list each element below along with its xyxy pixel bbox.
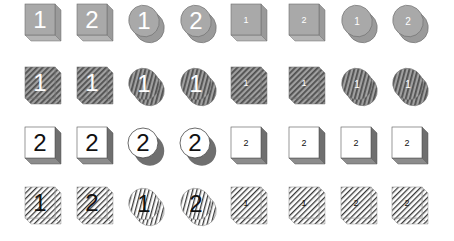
- shape-ellipse-r2-c8: 1: [391, 66, 431, 108]
- shape-label: 2: [85, 6, 98, 33]
- shape-label: 1: [85, 69, 98, 96]
- shape-label: 2: [301, 15, 306, 25]
- shape-ellipse-r1-c7: 1: [340, 3, 380, 45]
- shape-label: 2: [33, 129, 46, 156]
- shape-ellipse-r2-c7: 1: [340, 66, 380, 108]
- shape-circle-r3-c4: 2: [179, 126, 219, 168]
- shape-ellipse-r1-c4: 2: [179, 3, 219, 45]
- shape-label: 2: [404, 198, 409, 208]
- shape-label: 1: [33, 189, 46, 216]
- shape-cube-r4-c5: 1: [230, 186, 270, 228]
- shape-label: 1: [354, 79, 360, 90]
- shape-label: 2: [243, 138, 248, 148]
- shape-cube-r2-c1: 1: [24, 66, 64, 108]
- shape-cube-r1-c6: 2: [288, 3, 328, 45]
- shape-cube-r3-c1: 2: [24, 126, 64, 168]
- shape-label: 2: [353, 198, 358, 208]
- shape-cube-r3-c5: 2: [230, 126, 270, 168]
- shape-label: 2: [189, 7, 202, 34]
- shape-ellipse-r1-c3: 1: [127, 3, 167, 45]
- shape-cube-r4-c7: 2: [340, 186, 380, 228]
- shape-circle-r3-c3: 2: [127, 126, 167, 168]
- shape-label: 1: [33, 6, 46, 33]
- shape-label: 1: [301, 198, 306, 208]
- shape-ellipse-r2-c4: 1: [179, 66, 219, 108]
- shape-cube-r4-c1: 1: [24, 186, 64, 228]
- shape-label: 1: [189, 70, 202, 97]
- shape-label: 1: [354, 16, 360, 27]
- shape-cube-r4-c8: 2: [391, 186, 431, 228]
- shape-label: 1: [33, 69, 46, 96]
- shape-cube-r2-c5: 1: [230, 66, 270, 108]
- shape-label: 2: [189, 190, 202, 217]
- shape-label: 1: [137, 70, 150, 97]
- shape-cube-r2-c2: 1: [76, 66, 116, 108]
- shape-ellipse-r4-c3: 1: [127, 186, 167, 228]
- shape-label: 2: [188, 129, 201, 156]
- shape-cube-r4-c2: 2: [76, 186, 116, 228]
- shape-ellipse-r2-c3: 1: [127, 66, 167, 108]
- shape-label: 2: [85, 189, 98, 216]
- shape-label: 1: [137, 7, 150, 34]
- shape-cube-r1-c5: 1: [230, 3, 270, 45]
- shape-label: 2: [404, 138, 409, 148]
- shape-label: 1: [243, 78, 248, 88]
- shape-label: 1: [243, 15, 248, 25]
- shape-label: 1: [137, 190, 150, 217]
- shape-grid: 1 2 1 2 1 2 1 2 1: [0, 0, 454, 241]
- shape-cube-r3-c7: 2: [340, 126, 380, 168]
- shape-cube-r3-c8: 2: [391, 126, 431, 168]
- shape-cube-r2-c6: 1: [288, 66, 328, 108]
- shape-label: 2: [301, 138, 306, 148]
- shape-ellipse-r4-c4: 2: [179, 186, 219, 228]
- shape-cube-r4-c6: 1: [288, 186, 328, 228]
- shape-cube-r1-c1: 1: [24, 3, 64, 45]
- shape-label: 2: [136, 129, 149, 156]
- shape-label: 2: [353, 138, 358, 148]
- shape-label: 2: [405, 16, 411, 27]
- shape-cube-r3-c2: 2: [76, 126, 116, 168]
- shape-label: 1: [301, 78, 306, 88]
- shape-ellipse-r1-c8: 2: [391, 3, 431, 45]
- shape-cube-r3-c6: 2: [288, 126, 328, 168]
- shape-label: 2: [85, 129, 98, 156]
- shape-label: 1: [405, 79, 411, 90]
- shape-label: 1: [243, 198, 248, 208]
- shape-cube-r1-c2: 2: [76, 3, 116, 45]
